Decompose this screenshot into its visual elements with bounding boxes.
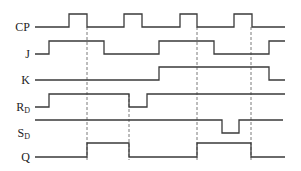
signal-label-cp: CP [15, 20, 30, 34]
waveform-k [35, 67, 285, 80]
signal-label-q: Q [21, 150, 30, 164]
waveforms [35, 14, 285, 157]
timing-diagram: CPJKRDSDQ [0, 0, 301, 171]
waveform-q [35, 143, 285, 157]
waveform-j [35, 41, 285, 54]
waveform-rd [35, 94, 285, 107]
signal-label-k: K [21, 73, 30, 87]
signal-label-j: J [25, 47, 30, 61]
waveform-cp [35, 14, 285, 27]
signal-labels: CPJKRDSDQ [15, 20, 30, 164]
waveform-sd [35, 120, 283, 133]
signal-label-rd: RD [16, 100, 30, 115]
signal-label-sd: SD [18, 126, 31, 141]
